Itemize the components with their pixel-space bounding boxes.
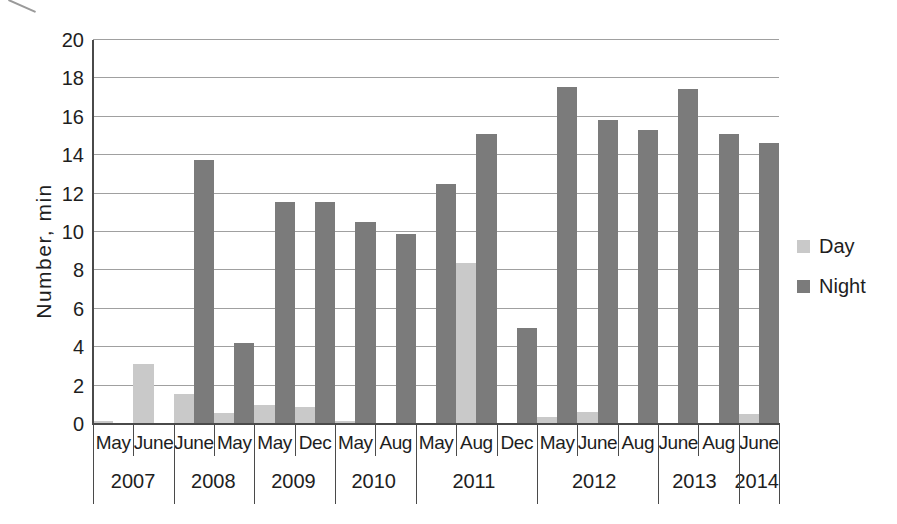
month-label-11: May	[537, 429, 577, 457]
month-label-2: June	[174, 429, 214, 457]
y-tick-label-20: 20	[34, 30, 84, 50]
y-tick-label-4: 4	[34, 337, 84, 357]
month-divider-3	[214, 425, 215, 456]
category-may-2007	[93, 40, 133, 424]
bar-night-aug-2013	[719, 134, 739, 424]
year-divider-11	[537, 425, 538, 504]
category-may-2009	[254, 40, 294, 424]
year-label-2009: 2009	[253, 462, 333, 504]
year-divider-16	[739, 425, 740, 504]
month-divider-10	[497, 425, 498, 456]
category-june-2007	[133, 40, 173, 424]
category-may-2008	[214, 40, 254, 424]
bar-night-june-2013	[678, 89, 698, 424]
month-divider-13	[618, 425, 619, 456]
month-label-5: Dec	[295, 429, 335, 457]
month-divider-5	[295, 425, 296, 456]
plot-area	[93, 40, 779, 424]
bar-night-june-2008	[194, 160, 214, 424]
month-labels-row: MayJuneJuneMayMayDecMayAugMayAugDecMayJu…	[93, 429, 779, 457]
year-label-2013: 2013	[654, 462, 734, 504]
bar-night-aug-2010	[396, 234, 416, 424]
legend-item-day: Day	[797, 236, 866, 256]
bar-night-dec-2009	[315, 202, 335, 424]
year-labels-row: 20072008200920102011201220132014	[93, 462, 779, 504]
legend-label-day: Day	[819, 236, 855, 256]
month-label-3: May	[214, 429, 254, 457]
bar-series-container	[93, 40, 779, 424]
y-tick-label-6: 6	[34, 299, 84, 319]
bar-night-june-2012	[598, 120, 618, 424]
year-label-2007: 2007	[93, 462, 173, 504]
month-label-6: May	[335, 429, 375, 457]
category-dec-2011	[497, 40, 537, 424]
category-aug-2010	[376, 40, 416, 424]
year-divider-0	[93, 425, 94, 504]
month-label-15: Aug	[698, 429, 738, 457]
y-tick-label-8: 8	[34, 260, 84, 280]
year-label-2012: 2012	[534, 462, 654, 504]
bar-day-june-2007	[133, 364, 153, 424]
year-divider-2	[174, 425, 175, 504]
y-tick-label-10: 10	[34, 222, 84, 242]
y-tick-label-12: 12	[34, 184, 84, 204]
bar-night-may-2012	[557, 87, 577, 424]
month-divider-7	[375, 425, 376, 456]
month-label-1: June	[133, 429, 173, 457]
month-label-4: May	[254, 429, 294, 457]
bar-night-may-2009	[275, 202, 295, 424]
bar-chart-figure: Number, min 02468101214161820 MayJuneJun…	[0, 0, 897, 524]
y-axis-line	[92, 40, 94, 424]
month-label-14: June	[658, 429, 698, 457]
year-divider-14	[658, 425, 659, 504]
category-june-2013	[658, 40, 698, 424]
month-label-16: June	[739, 429, 779, 457]
bar-night-may-2011	[436, 184, 456, 424]
year-divider-6	[335, 425, 336, 504]
x-axis-line	[92, 423, 780, 425]
month-label-0: May	[93, 429, 133, 457]
year-divider-17	[779, 425, 780, 504]
bar-day-aug-2011	[456, 263, 476, 424]
category-aug-2013	[698, 40, 738, 424]
category-dec-2009	[295, 40, 335, 424]
y-tick-label-18: 18	[34, 68, 84, 88]
month-label-10: Dec	[497, 429, 537, 457]
month-label-9: Aug	[456, 429, 496, 457]
bar-night-june-2014	[759, 143, 779, 424]
bar-night-aug-2011	[476, 134, 496, 424]
scan-artifact-mark	[8, 0, 36, 13]
month-label-8: May	[416, 429, 456, 457]
bar-night-may-2008	[234, 343, 254, 424]
month-label-7: Aug	[376, 429, 416, 457]
category-june-2008	[174, 40, 214, 424]
month-divider-15	[698, 425, 699, 456]
category-aug-2011	[456, 40, 496, 424]
month-divider-1	[133, 425, 134, 456]
bar-day-june-2008	[174, 394, 194, 424]
month-divider-9	[456, 425, 457, 456]
category-may-2010	[335, 40, 375, 424]
category-june-2012	[577, 40, 617, 424]
bar-day-dec-2009	[295, 407, 315, 424]
category-may-2011	[416, 40, 456, 424]
category-june-2014	[739, 40, 779, 424]
year-divider-4	[254, 425, 255, 504]
category-aug-2012	[618, 40, 658, 424]
bar-day-may-2009	[254, 405, 274, 424]
month-divider-12	[577, 425, 578, 456]
y-tick-label-16: 16	[34, 107, 84, 127]
month-label-13: Aug	[618, 429, 658, 457]
bar-night-aug-2012	[638, 130, 658, 424]
year-label-2010: 2010	[334, 462, 414, 504]
category-may-2012	[537, 40, 577, 424]
bar-night-dec-2011	[517, 328, 537, 424]
y-tick-label-0: 0	[34, 414, 84, 434]
bar-night-may-2010	[355, 222, 375, 424]
legend-swatch-day	[797, 240, 810, 253]
year-divider-8	[416, 425, 417, 504]
legend-swatch-night	[797, 280, 810, 293]
legend: DayNight	[797, 236, 866, 316]
month-label-12: June	[577, 429, 617, 457]
year-label-2014: 2014	[735, 462, 780, 504]
